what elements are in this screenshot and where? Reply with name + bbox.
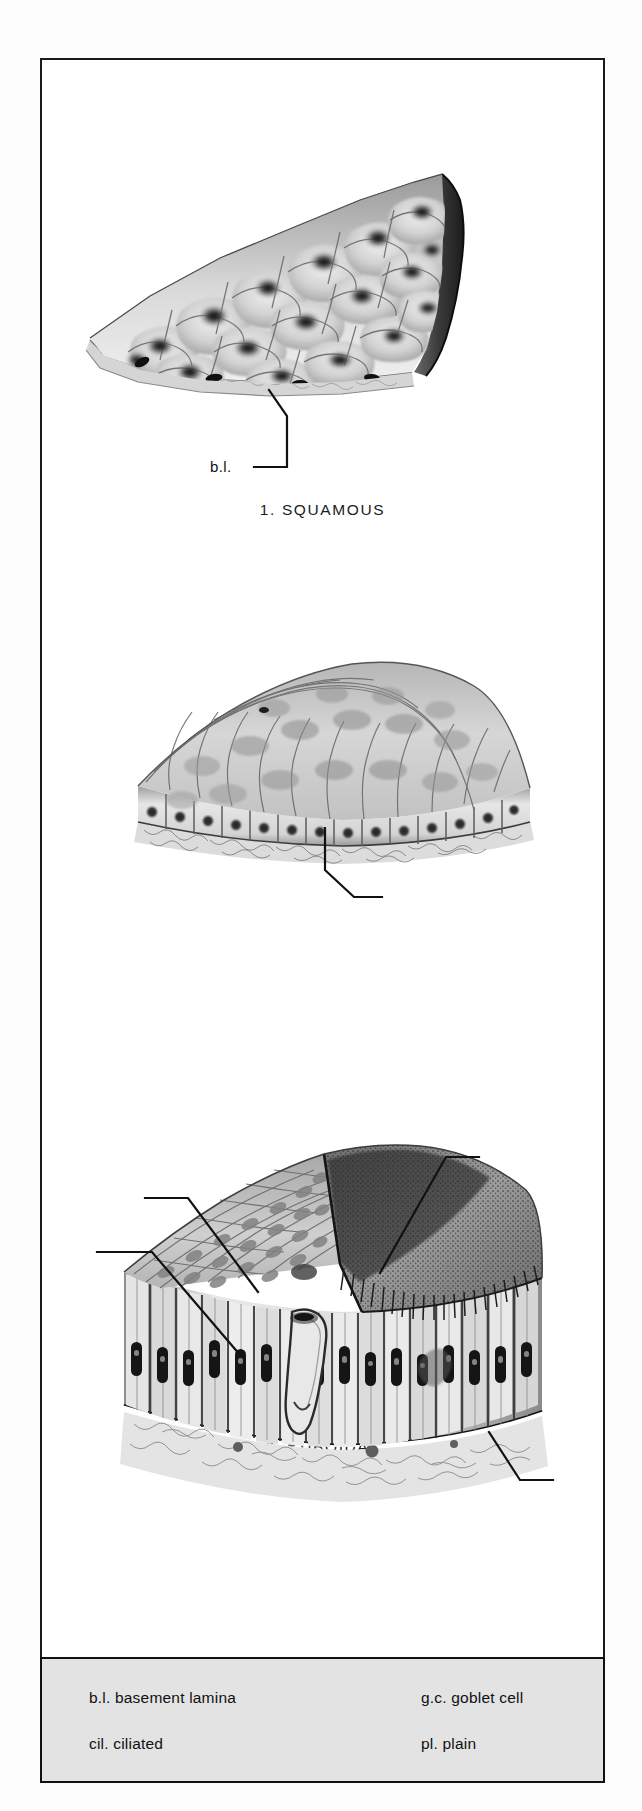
goblet-opening (291, 1264, 317, 1280)
squamous-illustration (42, 60, 607, 520)
legend-entry-pl: pl. plain (421, 1735, 476, 1753)
cuboidal-surface-mosaic (138, 662, 530, 820)
legend-entry-cil: cil. ciliated (89, 1735, 163, 1753)
cuboidal-illustration (42, 590, 607, 930)
cuboidal-surface-nucleus (259, 707, 269, 713)
legend-box: b.l. basement lamina g.c. goblet cell ci… (40, 1657, 605, 1783)
figure-squamous: b.l. 1. SQUAMOUS (42, 60, 603, 520)
legend-entry-bl: b.l. basement lamina (89, 1689, 236, 1707)
figure-cuboidal: b.l. 2. CUBOIDAL (42, 590, 603, 930)
label-bl-squamous: b.l. (210, 458, 232, 475)
figure-columnar: cil. pl. g.c. b.l. 3. COLUMNAR (42, 1020, 603, 1540)
columnar-illustration (42, 1020, 607, 1540)
caption-squamous: 1. SQUAMOUS (42, 501, 603, 519)
squamous-bl-leader (254, 390, 287, 467)
plate-frame: b.l. 1. SQUAMOUS (40, 58, 605, 1778)
columnar-cell-row (124, 1272, 542, 1447)
legend-entry-gc: g.c. goblet cell (421, 1689, 523, 1707)
